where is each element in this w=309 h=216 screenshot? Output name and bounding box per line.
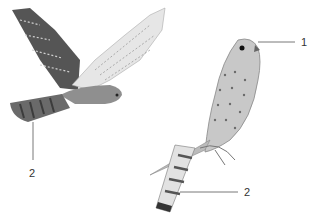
flying-light-wing <box>72 8 165 90</box>
perched-tail <box>156 145 195 212</box>
kestrel-figure <box>0 0 309 216</box>
label-2-perched: 2 <box>244 186 250 198</box>
flying-tail <box>10 94 70 122</box>
flying-dark-wing <box>12 8 80 90</box>
label-2-flying: 2 <box>29 167 35 179</box>
illustration: 1 2 2 <box>0 0 309 216</box>
perched-body <box>205 39 260 152</box>
perched-kestrel <box>150 39 295 212</box>
label-1: 1 <box>301 36 307 48</box>
flying-kestrel <box>10 8 165 160</box>
